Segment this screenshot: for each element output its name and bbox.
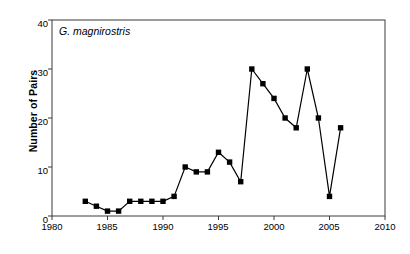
axis-ticks bbox=[48, 20, 385, 220]
plot-area bbox=[0, 0, 410, 254]
axis-frame bbox=[52, 20, 385, 216]
data-series-g-magnirostris bbox=[83, 66, 344, 213]
chart-figure: Number of Pairs 0 10 20 30 40 1980 1985 … bbox=[0, 0, 410, 254]
